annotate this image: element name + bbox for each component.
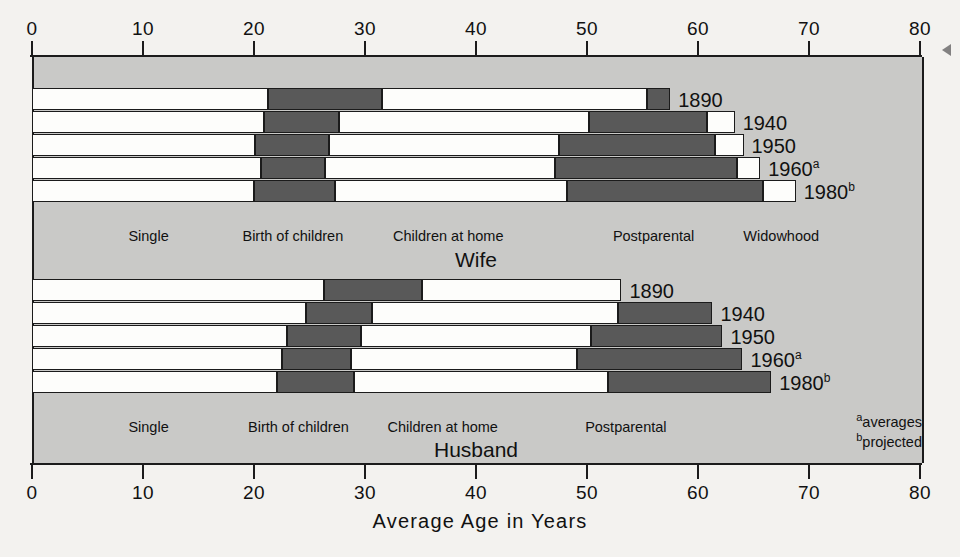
bar-segment-children-at-home <box>372 302 618 324</box>
bar-row <box>0 348 960 370</box>
axis-tick <box>475 464 477 479</box>
bar-segment-children-at-home <box>339 111 589 133</box>
footnote-line: aaverages <box>856 412 922 432</box>
axis-tick-label: 70 <box>798 18 820 40</box>
axis-tick <box>919 464 921 479</box>
bar-segment-birth-of-children <box>268 88 381 110</box>
bar-segment-birth-of-children <box>264 111 339 133</box>
bar-segment-children-at-home <box>351 348 577 370</box>
bar-segment-birth-of-children <box>277 371 354 393</box>
bar-segment-birth-of-children <box>254 180 335 202</box>
bar-row <box>0 279 960 301</box>
axis-tick-label: 60 <box>687 18 709 40</box>
bar-segment-single <box>32 302 306 324</box>
bar-segment-single <box>32 279 324 301</box>
bar-row <box>0 111 960 133</box>
bar-segment-widowhood <box>763 180 795 202</box>
axis-tick <box>697 41 699 56</box>
bar-row <box>0 325 960 347</box>
stage-label: Postparental <box>585 419 666 435</box>
bar-segment-widowhood <box>715 134 744 156</box>
stage-label: Single <box>128 228 168 244</box>
x-axis-title: Average Age in Years <box>0 510 960 533</box>
bar-year-label: 1940 <box>720 303 765 325</box>
bar-segment-birth-of-children <box>255 134 329 156</box>
bar-segment-postparental <box>577 348 742 370</box>
axis-tick-label: 20 <box>243 482 265 504</box>
bar-segment-children-at-home <box>382 88 647 110</box>
bar-segment-postparental <box>589 111 707 133</box>
axis-tick-label: 50 <box>576 482 598 504</box>
axis-tick-label: 0 <box>26 18 37 40</box>
bar-segment-single <box>32 157 261 179</box>
panel-title: Husband <box>434 438 518 462</box>
axis-tick <box>475 41 477 56</box>
bar-year-label: 1980b <box>804 181 855 203</box>
footnotes: aaveragesbprojected <box>856 412 922 452</box>
axis-tick <box>586 41 588 56</box>
bar-row <box>0 302 960 324</box>
axis-tick-label: 20 <box>243 18 265 40</box>
bar-segment-single <box>32 111 264 133</box>
bar-segment-postparental <box>618 302 712 324</box>
bar-year-label: 1980b <box>779 372 830 394</box>
bar-segment-single <box>32 325 287 347</box>
bar-segment-postparental <box>647 88 670 110</box>
axis-tick-label: 40 <box>465 482 487 504</box>
bar-segment-postparental <box>567 180 763 202</box>
bar-year-label: 1960a <box>750 349 801 371</box>
bar-segment-single <box>32 348 282 370</box>
bar-year-label: 1950 <box>752 135 797 157</box>
stage-label: Birth of children <box>242 228 343 244</box>
page-edge-marker <box>942 44 951 56</box>
bar-year-label: 1890 <box>629 280 674 302</box>
bar-segment-children-at-home <box>325 157 555 179</box>
stage-label: Postparental <box>613 228 694 244</box>
panel-title: Wife <box>455 248 497 272</box>
footnote-line: bprojected <box>856 432 922 452</box>
axis-tick-label: 30 <box>354 18 376 40</box>
stage-label: Widowhood <box>743 228 819 244</box>
bar-segment-children-at-home <box>329 134 559 156</box>
axis-tick <box>364 41 366 56</box>
axis-tick <box>586 464 588 479</box>
axis-tick-label: 70 <box>798 482 820 504</box>
bar-segment-children-at-home <box>422 279 622 301</box>
stage-label: Children at home <box>393 228 503 244</box>
bar-segment-birth-of-children <box>306 302 371 324</box>
bar-row <box>0 134 960 156</box>
axis-tick <box>142 464 144 479</box>
axis-tick-label: 60 <box>687 482 709 504</box>
bar-segment-single <box>32 88 268 110</box>
axis-tick-label: 10 <box>132 482 154 504</box>
bar-segment-widowhood <box>707 111 735 133</box>
axis-tick-label: 10 <box>132 18 154 40</box>
axis-tick-label: 80 <box>909 482 931 504</box>
axis-tick <box>808 41 810 56</box>
bar-segment-birth-of-children <box>287 325 360 347</box>
bar-segment-postparental <box>559 134 714 156</box>
bar-year-label: 1890 <box>678 89 723 111</box>
axis-tick-label: 0 <box>26 482 37 504</box>
axis-tick <box>697 464 699 479</box>
bar-segment-children-at-home <box>354 371 608 393</box>
axis-tick <box>919 41 921 56</box>
family-life-cycle-chart: 01020304050607080 01020304050607080 1890… <box>0 0 960 557</box>
bar-segment-widowhood <box>737 157 760 179</box>
axis-tick <box>253 464 255 479</box>
bar-segment-children-at-home <box>335 180 567 202</box>
bar-segment-postparental <box>591 325 722 347</box>
stage-label: Children at home <box>387 419 497 435</box>
axis-tick <box>253 41 255 56</box>
bar-segment-children-at-home <box>361 325 592 347</box>
bar-row <box>0 88 960 110</box>
bar-segment-birth-of-children <box>324 279 422 301</box>
axis-tick <box>364 464 366 479</box>
bar-segment-single <box>32 371 277 393</box>
axis-tick-label: 30 <box>354 482 376 504</box>
bar-segment-single <box>32 134 255 156</box>
axis-tick <box>808 464 810 479</box>
axis-tick-label: 80 <box>909 18 931 40</box>
bar-year-label: 1940 <box>743 112 788 134</box>
bar-segment-postparental <box>608 371 771 393</box>
